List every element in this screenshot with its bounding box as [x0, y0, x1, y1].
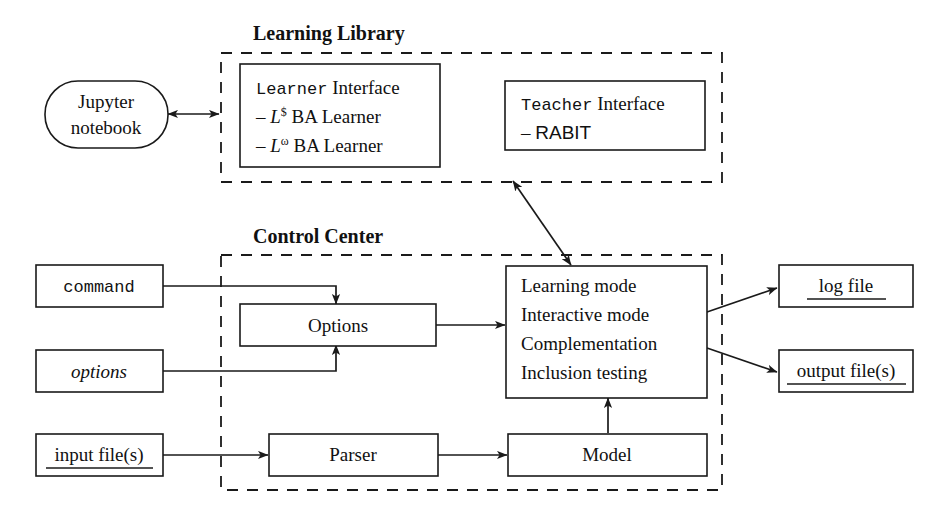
node-input-files[interactable]: input file(s)	[36, 434, 163, 476]
learner-interface-title-mono: Learner	[256, 80, 327, 99]
modes-line-1: Interactive mode	[521, 304, 649, 325]
options-box-label: Options	[308, 315, 368, 336]
teacher-item-0-dash: –	[520, 122, 535, 143]
learning-library-label: Learning Library	[253, 22, 405, 45]
control-center-label: Control Center	[253, 225, 383, 247]
node-teacher-interface[interactable]: Teacher Interface – RABIT	[505, 81, 705, 150]
node-output-files[interactable]: output file(s)	[779, 350, 913, 392]
node-modes[interactable]: Learning mode Interactive mode Complemen…	[506, 266, 707, 398]
edge-library-controlcenter	[513, 181, 571, 265]
node-options-box[interactable]: Options	[240, 304, 436, 346]
node-model[interactable]: Model	[508, 434, 707, 476]
output-files-label: output file(s)	[797, 360, 896, 382]
learner-interface-title: Learner Interface	[256, 77, 400, 99]
learner-interface-item-1: – Lω BA Learner	[255, 134, 383, 156]
node-learner-interface[interactable]: Learner Interface – L$ BA Learner – Lω B…	[240, 64, 440, 167]
modes-line-0: Learning mode	[521, 275, 637, 296]
learner-interface-item-0: – L$ BA Learner	[255, 105, 381, 127]
diagram-canvas: Learning Library Control Center	[0, 0, 948, 527]
node-parser[interactable]: Parser	[269, 434, 438, 476]
learner-item-0-symbol: L	[269, 106, 281, 127]
node-command[interactable]: command	[36, 265, 163, 307]
input-files-label: input file(s)	[54, 444, 143, 466]
node-log-file[interactable]: log file	[779, 265, 913, 307]
log-file-label: log file	[819, 275, 873, 296]
edge-modes-logfile	[707, 288, 777, 312]
jupyter-notebook-line1: Jupyter	[78, 91, 135, 112]
learner-interface-title-rest: Interface	[327, 77, 399, 98]
options-input-label: options	[71, 361, 127, 382]
command-label: command	[63, 278, 134, 297]
modes-line-2: Complementation	[521, 333, 658, 354]
edge-modes-outputfiles	[707, 348, 777, 372]
learner-item-0-dash: –	[255, 106, 270, 127]
node-options-input[interactable]: options	[36, 350, 163, 392]
learner-item-0-rest: BA Learner	[287, 106, 382, 127]
teacher-interface-item-0: – RABIT	[520, 122, 592, 143]
learner-item-1-symbol: L	[269, 135, 281, 156]
teacher-interface-title: Teacher Interface	[521, 93, 665, 115]
node-jupyter-notebook[interactable]: Jupyter notebook	[45, 81, 168, 148]
teacher-interface-title-rest: Interface	[592, 93, 664, 114]
edge-command-options	[163, 286, 336, 304]
modes-line-3: Inclusion testing	[521, 362, 648, 383]
model-label: Model	[582, 444, 632, 465]
teacher-interface-title-mono: Teacher	[521, 96, 592, 115]
parser-label: Parser	[329, 444, 377, 465]
learner-item-1-rest: BA Learner	[289, 135, 384, 156]
learner-item-1-dash: –	[255, 135, 270, 156]
teacher-item-0-label: RABIT	[535, 122, 591, 143]
learner-item-1-superscript: ω	[281, 134, 289, 148]
jupyter-notebook-line2: notebook	[71, 117, 142, 138]
architecture-diagram: Learning Library Control Center	[0, 0, 948, 527]
edge-optionsinput-options	[163, 345, 336, 371]
